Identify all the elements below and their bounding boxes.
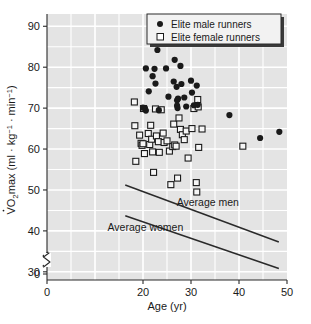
data-point-male — [276, 129, 282, 135]
data-point-male — [195, 102, 201, 108]
data-point-female — [175, 175, 181, 181]
x-tick-label: 30 — [185, 286, 197, 298]
data-point-male — [165, 94, 171, 100]
data-point-female — [194, 189, 200, 195]
data-point-female — [145, 130, 151, 136]
legend-marker-female-icon — [157, 34, 164, 41]
data-point-female — [132, 123, 138, 129]
legend-marker-male-icon — [157, 21, 163, 27]
y-tick-label: 50 — [28, 184, 40, 196]
data-point-female — [150, 149, 156, 155]
legend-label-male: Elite male runners — [171, 19, 252, 30]
data-point-male — [194, 83, 200, 89]
data-point-male — [154, 47, 160, 53]
data-point-female — [151, 169, 157, 175]
data-point-male — [171, 78, 177, 84]
data-point-female — [240, 143, 246, 149]
data-point-female — [181, 137, 187, 143]
data-point-female — [140, 141, 146, 147]
data-point-male — [151, 66, 157, 72]
data-point-male — [189, 89, 195, 95]
chart-figure: 030405060708090 020304050 Average menAve… — [0, 0, 311, 324]
data-point-female — [153, 133, 159, 139]
data-point-female — [195, 97, 201, 103]
data-point-female — [199, 126, 205, 132]
data-point-female — [193, 180, 199, 186]
data-point-male — [226, 112, 232, 118]
y-tick-label: 80 — [28, 61, 40, 73]
y-tick-label: 40 — [28, 225, 40, 237]
data-point-male — [181, 94, 187, 100]
x-tick-label: 40 — [233, 286, 245, 298]
v-dot-overline-icon — [3, 210, 5, 212]
data-point-female — [183, 128, 189, 134]
data-point-female — [168, 182, 174, 188]
vo2max-scatter-chart: 030405060708090 020304050 Average menAve… — [0, 0, 311, 324]
data-point-female — [185, 155, 191, 161]
data-point-female — [148, 122, 154, 128]
y-tick-label: 30 — [28, 266, 40, 278]
data-point-female — [131, 99, 137, 105]
data-point-female — [176, 115, 182, 121]
x-axis-title: Age (yr) — [147, 300, 186, 312]
data-point-female — [155, 139, 161, 145]
data-point-male — [163, 65, 169, 71]
data-point-female — [164, 138, 170, 144]
x-tick-label: 20 — [137, 286, 149, 298]
data-point-male — [172, 57, 178, 63]
data-point-male — [188, 78, 194, 84]
data-point-female — [173, 143, 179, 149]
data-point-male — [175, 96, 181, 102]
chart-legend: Elite male runners Elite female runners — [147, 14, 284, 47]
x-tick-label: 50 — [281, 286, 293, 298]
y-tick-label: 60 — [28, 143, 40, 155]
data-point-male — [177, 63, 183, 69]
data-point-male — [257, 135, 263, 141]
data-point-female — [160, 130, 166, 136]
data-point-male — [156, 107, 162, 113]
x-tick-label: 0 — [44, 286, 50, 298]
data-point-female — [189, 126, 195, 132]
data-point-male — [174, 105, 180, 111]
data-point-female — [133, 158, 139, 164]
y-tick-label: 70 — [28, 102, 40, 114]
data-point-male — [183, 103, 189, 109]
data-point-male — [178, 81, 184, 87]
data-point-male — [150, 73, 156, 79]
data-point-male — [140, 105, 146, 111]
data-point-male — [146, 88, 152, 94]
data-point-female — [137, 132, 143, 138]
annotation-label: Average women — [108, 221, 184, 233]
data-point-female — [156, 149, 162, 155]
annotation-label: Average men — [177, 196, 239, 208]
legend-label-female: Elite female runners — [171, 32, 260, 43]
data-point-female — [141, 151, 147, 157]
data-point-female — [171, 121, 177, 127]
y-tick-label: 90 — [28, 20, 40, 32]
data-point-female — [196, 144, 202, 150]
data-point-male — [143, 65, 149, 71]
data-point-male — [152, 80, 158, 86]
